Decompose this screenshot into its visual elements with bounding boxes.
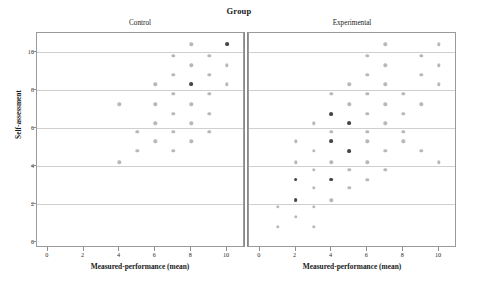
data-point — [136, 130, 139, 133]
x-tick-mark-control-10 — [226, 247, 227, 251]
data-point — [154, 103, 157, 106]
data-point — [312, 186, 315, 189]
data-point — [189, 82, 193, 86]
x-tick-mark-control-4 — [118, 247, 119, 251]
data-point — [172, 112, 175, 115]
x-tick-mark-experimental-8 — [402, 247, 403, 251]
data-point — [225, 43, 229, 47]
data-point — [419, 149, 422, 152]
data-point — [348, 121, 352, 125]
data-point — [348, 83, 351, 86]
data-point — [207, 112, 210, 115]
data-point — [312, 225, 315, 228]
x-tick-label-experimental-0: 0 — [252, 251, 266, 258]
data-point — [276, 205, 279, 208]
gridline-y-4 — [37, 166, 243, 167]
data-point — [384, 43, 387, 46]
data-point — [366, 73, 369, 76]
data-point — [384, 168, 387, 171]
data-point — [172, 130, 175, 133]
scatter-plot-figure: Group Control Experimental Self-assessme… — [0, 0, 478, 284]
data-point — [402, 92, 405, 95]
data-point — [384, 122, 387, 125]
data-point — [348, 186, 351, 189]
x-tick-mark-control-2 — [83, 247, 84, 251]
data-point — [330, 130, 333, 133]
data-point — [294, 161, 297, 164]
gridline-y-6 — [37, 128, 243, 129]
data-point — [190, 43, 193, 46]
data-point — [190, 64, 193, 67]
x-axis-title-experimental: Measured-performance (mean) — [248, 262, 456, 271]
data-point — [437, 43, 440, 46]
data-point — [384, 83, 387, 86]
data-point — [348, 168, 351, 171]
x-tick-label-control-4: 4 — [111, 251, 125, 258]
x-axis-title-control: Measured-performance (mean) — [36, 262, 244, 271]
page-title: Group — [0, 6, 478, 16]
data-point — [172, 92, 175, 95]
data-point — [330, 199, 333, 202]
x-tick-mark-control-8 — [190, 247, 191, 251]
gridline-y-10 — [249, 52, 455, 53]
x-tick-mark-experimental-4 — [330, 247, 331, 251]
x-tick-mark-experimental-10 — [438, 247, 439, 251]
data-point — [366, 178, 369, 181]
x-tick-mark-experimental-6 — [366, 247, 367, 251]
data-point — [118, 103, 121, 106]
data-point — [207, 73, 210, 76]
data-point — [402, 112, 405, 115]
data-point — [384, 149, 387, 152]
data-point — [419, 54, 422, 57]
x-tick-mark-experimental-2 — [295, 247, 296, 251]
data-point — [172, 54, 175, 57]
data-point — [172, 149, 175, 152]
data-point — [312, 168, 315, 171]
x-tick-mark-control-0 — [47, 247, 48, 251]
data-point — [384, 64, 387, 67]
data-point — [312, 149, 315, 152]
data-point — [225, 83, 228, 86]
data-point — [366, 130, 369, 133]
panel-strip-label-experimental: Experimental — [248, 19, 456, 27]
data-point — [154, 83, 157, 86]
data-point — [330, 178, 334, 182]
data-point — [366, 92, 369, 95]
panel-control — [36, 32, 244, 247]
x-tick-label-experimental-2: 2 — [288, 251, 302, 258]
data-point — [312, 122, 315, 125]
x-tick-label-experimental-8: 8 — [395, 251, 409, 258]
gridline-y-10 — [37, 52, 243, 53]
data-point — [330, 161, 333, 164]
gridline-y-8 — [37, 90, 243, 91]
data-point — [294, 140, 297, 143]
x-tick-label-experimental-4: 4 — [323, 251, 337, 258]
x-tick-mark-control-6 — [154, 247, 155, 251]
data-point — [190, 122, 193, 125]
data-point — [419, 103, 422, 106]
x-tick-mark-experimental-0 — [259, 247, 260, 251]
data-point — [190, 140, 193, 143]
data-point — [294, 178, 298, 182]
data-point — [312, 205, 315, 208]
data-point — [419, 73, 422, 76]
gridline-y-2 — [37, 204, 243, 205]
panel-experimental — [248, 32, 456, 247]
data-point — [154, 140, 157, 143]
data-point — [118, 161, 121, 164]
data-point — [294, 199, 298, 203]
data-point — [437, 64, 440, 67]
x-tick-label-experimental-10: 10 — [431, 251, 445, 258]
data-point — [207, 54, 210, 57]
data-point — [190, 103, 193, 106]
data-point — [366, 112, 369, 115]
data-point — [276, 225, 279, 228]
data-point — [402, 130, 405, 133]
x-tick-label-control-6: 6 — [147, 251, 161, 258]
data-point — [154, 122, 157, 125]
data-point — [402, 140, 405, 143]
panel-strip-label-control: Control — [36, 19, 244, 27]
data-point — [207, 92, 210, 95]
data-point — [348, 103, 351, 106]
gridline-y-2 — [249, 204, 455, 205]
